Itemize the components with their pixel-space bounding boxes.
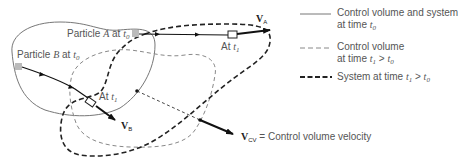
particle-b-t1-box (85, 97, 96, 107)
label-text: At (99, 91, 111, 102)
velocity-b-label: VB (121, 120, 132, 132)
label-text: Particle (17, 49, 53, 60)
velocity-a-arrow (237, 30, 270, 34)
label-text: at time (337, 19, 370, 30)
particle-a-t1-box (228, 31, 237, 38)
velocity-a-label: VA (256, 13, 267, 25)
cv-displacement-line (137, 91, 200, 120)
velocity-cv-label: VCV = Control volume velocity (241, 131, 371, 143)
particle-a-marker (132, 30, 139, 37)
time-subscript: 0 (373, 24, 377, 32)
particle-b-path (22, 67, 88, 98)
label-text: At (221, 41, 233, 52)
label-text: at time (337, 53, 370, 64)
particle-b-label: Particle B at t0 (17, 49, 79, 64)
relation-symbol: > (376, 53, 387, 64)
legend-line2: at time t1 > t0 (337, 53, 404, 68)
time-subscript: 1 (114, 96, 118, 104)
time-subscript: 0 (76, 54, 80, 62)
legend-line2: at time t0 (337, 19, 458, 34)
time-subscript: 0 (126, 33, 130, 41)
label-text: Particle (67, 28, 103, 39)
legend-line1: System at time t1 > t0 (337, 71, 430, 86)
time-subscript: 0 (426, 76, 430, 84)
vector-subscript: A (263, 19, 267, 25)
path-arrow-icon (155, 32, 160, 36)
legend-item-cv-system-t0: Control volume and system at time t0 (337, 7, 458, 34)
legend-item-cv-t1: Control volume at time t1 > t0 (337, 41, 404, 68)
legend-item-system-t1: System at time t1 > t0 (337, 71, 430, 86)
particle-a-t1-label: At t1 (221, 41, 240, 56)
label-text: at (59, 49, 73, 60)
legend-line1: Control volume and system (337, 7, 458, 19)
legend-line1: Control volume (337, 41, 404, 53)
particle-b-t1-label: At t1 (99, 91, 118, 106)
label-text: System at time (337, 71, 406, 82)
velocity-b-arrow (96, 106, 115, 120)
path-arrow-icon (195, 32, 200, 36)
vector-subscript: CV (248, 137, 256, 143)
velocity-cv-arrow (200, 120, 233, 134)
velocity-cv-description: = Control volume velocity (257, 131, 372, 142)
label-text: at (109, 28, 123, 39)
control-volume-t1-outline (70, 50, 216, 148)
vector-subscript: B (128, 126, 132, 132)
relation-symbol: > (412, 71, 423, 82)
time-subscript: 0 (390, 58, 394, 66)
particle-b-marker (15, 63, 22, 70)
particle-a-label: Particle A at t0 (67, 28, 129, 43)
time-subscript: 1 (236, 46, 240, 54)
